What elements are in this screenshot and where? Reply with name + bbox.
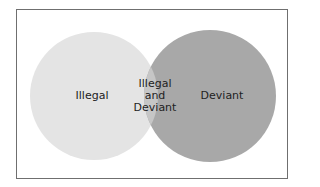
deviant-label: Deviant bbox=[192, 90, 252, 102]
intersection-line-3: Deviant bbox=[126, 102, 184, 114]
illegal-label: Illegal bbox=[62, 90, 122, 102]
intersection-label: Illegal and Deviant bbox=[126, 78, 184, 114]
